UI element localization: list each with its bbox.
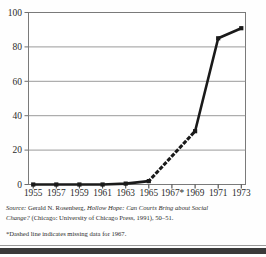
x-label-1963: 1963 <box>116 188 135 196</box>
bottom-rule <box>0 248 266 254</box>
chart-svg: 100 80 60 40 20 0 1955 1957 1959 1961 19… <box>0 8 266 196</box>
source-label: Source: <box>6 204 26 211</box>
x-label-1955: 1955 <box>24 188 43 196</box>
x-label-1959: 1959 <box>70 188 89 196</box>
figure-container: 100 80 60 40 20 0 1955 1957 1959 1961 19… <box>0 0 266 257</box>
x-label-1969: 1969 <box>186 188 205 196</box>
source-line-2: Change? (Chicago: University of Chicago … <box>6 213 256 223</box>
data-point-1959 <box>77 182 81 186</box>
y-label-20: 20 <box>13 145 23 155</box>
x-label-1973: 1973 <box>232 188 251 196</box>
y-label-60: 60 <box>13 77 23 87</box>
data-point-1965 <box>147 179 151 183</box>
caption-block: Source: Gerald N. Rosenberg, Hollow Hope… <box>6 203 256 238</box>
figure-footnote: *Dashed line indicates missing data for … <box>6 229 256 239</box>
data-point-1957 <box>54 182 58 186</box>
x-label-1957: 1957 <box>47 188 66 196</box>
data-point-1969 <box>193 129 197 133</box>
x-label-1965: 1965 <box>140 188 159 196</box>
data-point-1961 <box>101 182 105 186</box>
source-title-part1: Hollow Hope: Can Courts Bring about Soci… <box>87 204 208 211</box>
y-label-100: 100 <box>8 8 23 18</box>
y-label-40: 40 <box>13 111 23 121</box>
source-author: Gerald N. Rosenberg, <box>26 204 87 211</box>
y-axis-ticks <box>25 13 29 185</box>
x-label-1961: 1961 <box>93 188 112 196</box>
bottom-rule-thin <box>0 245 266 246</box>
data-point-1973 <box>239 26 243 30</box>
source-line-1: Source: Gerald N. Rosenberg, Hollow Hope… <box>6 203 256 213</box>
y-label-0: 0 <box>17 180 22 190</box>
data-point-1963 <box>124 182 128 186</box>
data-point-1955 <box>31 182 35 186</box>
cropped-title-remnant <box>34 0 230 8</box>
source-publication: (Chicago: University of Chicago Press, 1… <box>30 214 174 221</box>
y-label-80: 80 <box>13 42 23 52</box>
x-label-1967: 1967* <box>161 188 185 196</box>
line-chart: 100 80 60 40 20 0 1955 1957 1959 1961 19… <box>0 8 266 196</box>
data-point-1971 <box>216 36 220 40</box>
source-title-part2: Change? <box>6 214 30 221</box>
x-label-1971: 1971 <box>209 188 228 196</box>
plot-frame <box>29 13 246 185</box>
